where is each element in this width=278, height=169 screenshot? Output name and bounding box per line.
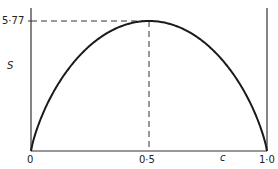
x-tick-label-zero: 0 [27, 155, 33, 165]
x-tick-label-mid: 0·5 [139, 155, 155, 165]
x-axis-label: c [220, 153, 226, 163]
y-axis-label: S [7, 61, 13, 71]
x-tick-label-max: 1·0 [259, 155, 275, 165]
y-tick-label-max: 5·77 [2, 16, 24, 26]
chart-plot [0, 0, 278, 169]
